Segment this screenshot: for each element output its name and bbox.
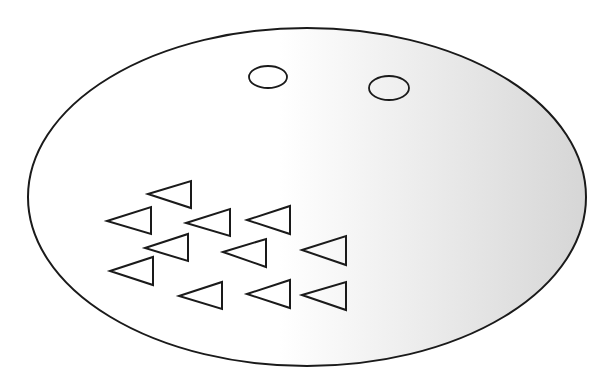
- diagram-canvas: [0, 0, 608, 386]
- outer-ellipse: [28, 28, 586, 366]
- diagram-figure: [0, 0, 608, 386]
